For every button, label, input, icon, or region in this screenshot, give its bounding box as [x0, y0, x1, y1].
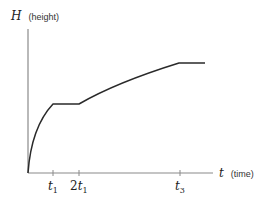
x-axis-label: t (time)	[219, 163, 254, 180]
tick-label-2t1: 2t1	[70, 179, 88, 195]
height-curve	[28, 63, 205, 173]
tick-label-t1: t1	[48, 179, 58, 195]
tick-label-t3: t3	[175, 179, 185, 195]
y-axis-label: H (height)	[10, 6, 59, 23]
height-vs-time-diagram: H (height) t (time) t1 2t1 t3	[0, 0, 255, 198]
